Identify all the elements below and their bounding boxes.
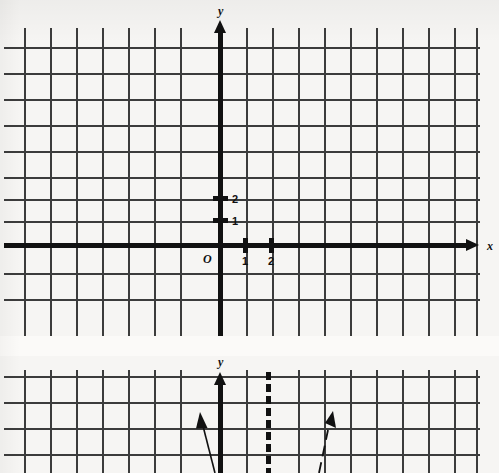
- grid-line-horizontal: [4, 73, 480, 75]
- lower-coordinate-plane-panel: y: [0, 356, 499, 473]
- grid-line-horizontal: [4, 151, 480, 153]
- upper-coordinate-plane-panel: x y 1 2 1 2 O: [0, 0, 499, 336]
- grid-line-horizontal: [4, 221, 480, 223]
- x-axis-tick-label-2: 2: [268, 256, 274, 267]
- y-axis-tick-label-1: 1: [232, 216, 238, 227]
- grid-line-horizontal: [4, 273, 480, 275]
- annotation-arrows-layer: [0, 356, 499, 473]
- y-axis-arrowhead-icon: [214, 20, 226, 33]
- y-axis-tick-2: [213, 196, 228, 201]
- grid-line-horizontal: [4, 199, 480, 201]
- x-axis-label: x: [487, 240, 493, 252]
- grid-line-horizontal: [4, 47, 480, 49]
- figure-root: x y 1 2 1 2 O: [0, 0, 499, 473]
- grid-line-horizontal: [4, 125, 480, 127]
- x-axis-arrowhead-icon: [466, 239, 479, 251]
- x-axis-tick-2: [269, 238, 274, 253]
- right-pointer-arrow: [319, 411, 336, 473]
- y-axis-tick-1: [213, 218, 228, 223]
- x-axis-tick-1: [243, 238, 248, 253]
- grid-line-horizontal: [4, 177, 480, 179]
- y-axis-line: [218, 32, 223, 336]
- y-axis-label: y: [218, 5, 223, 17]
- origin-label: O: [203, 253, 212, 265]
- y-axis-tick-label-2: 2: [232, 194, 238, 205]
- grid-line-horizontal: [4, 99, 480, 101]
- x-axis-line: [4, 243, 470, 248]
- left-pointer-arrow: [196, 412, 215, 473]
- grid-line-horizontal: [4, 299, 480, 301]
- x-axis-tick-label-1: 1: [242, 256, 248, 267]
